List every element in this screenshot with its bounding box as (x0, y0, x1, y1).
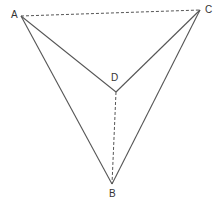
vertex-label-b: B (109, 188, 116, 199)
edge-db (112, 92, 116, 184)
edge-ab (21, 16, 112, 184)
edge-cb (112, 10, 200, 184)
edge-cd (116, 10, 200, 92)
tetrahedron-figure: A B C D (0, 0, 218, 203)
vertex-label-c: C (205, 4, 212, 15)
labels-group: A B C D (11, 4, 212, 199)
edges-group (21, 10, 200, 184)
edge-ad (21, 16, 116, 92)
vertex-label-d: D (111, 72, 118, 83)
vertex-label-a: A (11, 9, 18, 20)
geometry-diagram: A B C D (0, 0, 218, 203)
edge-ac (21, 10, 200, 16)
